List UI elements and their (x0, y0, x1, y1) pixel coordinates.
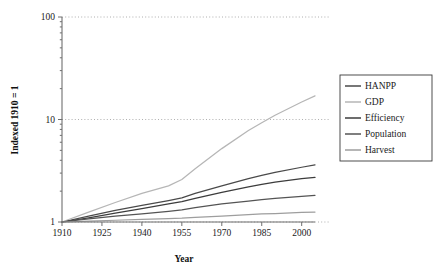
gridlines-group (62, 17, 330, 222)
x-tick-label-1910: 1910 (53, 228, 72, 238)
x-tick-label-2000: 2000 (292, 228, 311, 238)
legend-label-gdp: GDP (365, 97, 384, 107)
x-tick-label-1940: 1940 (132, 228, 151, 238)
legend-label-population: Population (365, 129, 406, 139)
legend-label-hanpp: HANPP (365, 81, 396, 91)
x-tick-label-1955: 1955 (172, 228, 191, 238)
legend: HANPPGDPEfficiencyPopulationHarvest (340, 75, 432, 161)
y-axis-title: Indexed 1910 = 1 (10, 85, 20, 154)
x-tick-label-1985: 1985 (252, 228, 271, 238)
line-chart-svg: 1910192519401955197019852000 110100 Year… (0, 0, 441, 268)
x-tick-labels: 1910192519401955197019852000 (53, 228, 312, 238)
x-tick-label-1925: 1925 (92, 228, 111, 238)
series-line-gdp (62, 96, 315, 222)
series-group (62, 96, 315, 222)
y-tick-label-10: 10 (46, 115, 56, 125)
legend-label-efficiency: Efficiency (365, 113, 405, 123)
series-line-efficiency (62, 177, 315, 222)
y-tick-labels: 110100 (41, 12, 56, 227)
y-tick-label-1: 1 (50, 217, 55, 227)
y-tick-label-100: 100 (41, 12, 56, 22)
legend-label-harvest: Harvest (365, 145, 395, 155)
x-tick-label-1970: 1970 (212, 228, 231, 238)
x-axis-title: Year (175, 254, 195, 264)
